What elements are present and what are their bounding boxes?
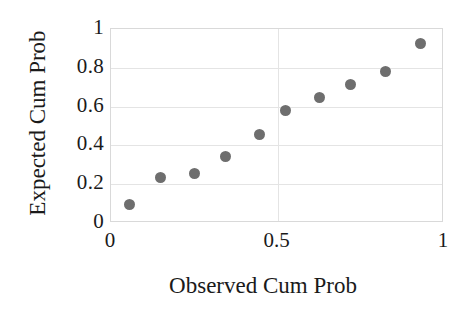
y-axis-tick-label: 0.4 bbox=[77, 133, 104, 154]
y-axis-title: Expected Cum Prob bbox=[25, 11, 51, 235]
y-axis-tick-label: 0.6 bbox=[77, 95, 104, 116]
gridline-horizontal bbox=[111, 68, 442, 69]
data-point bbox=[380, 66, 391, 77]
data-point bbox=[314, 92, 325, 103]
gridline-vertical bbox=[278, 29, 279, 221]
data-point bbox=[189, 168, 200, 179]
data-point bbox=[345, 79, 356, 90]
x-axis-title: Observed Cum Prob bbox=[0, 272, 468, 300]
y-axis-tick-label: 1 bbox=[93, 17, 104, 38]
x-axis-tick-label: 0 bbox=[105, 228, 116, 252]
data-point bbox=[280, 105, 291, 116]
data-point bbox=[254, 129, 265, 140]
x-axis-tick-label: 0.5 bbox=[263, 228, 289, 252]
data-point bbox=[124, 199, 135, 210]
y-axis-tick-label: 0.2 bbox=[77, 172, 104, 193]
data-point bbox=[415, 38, 426, 49]
gridline-horizontal bbox=[111, 184, 442, 185]
plot-area bbox=[110, 28, 443, 222]
data-point bbox=[155, 172, 166, 183]
y-axis-tick-label: 0.8 bbox=[77, 56, 104, 77]
gridline-horizontal bbox=[111, 107, 442, 108]
scatter-chart: 00.20.40.60.81 00.51 Observed Cum Prob E… bbox=[0, 0, 468, 318]
x-axis-tick-label: 1 bbox=[438, 228, 449, 252]
data-point bbox=[220, 151, 231, 162]
y-axis-tick-labels: 00.20.40.60.81 bbox=[0, 0, 104, 318]
x-axis-tick-labels: 00.51 bbox=[0, 228, 468, 258]
gridline-horizontal bbox=[111, 145, 442, 146]
